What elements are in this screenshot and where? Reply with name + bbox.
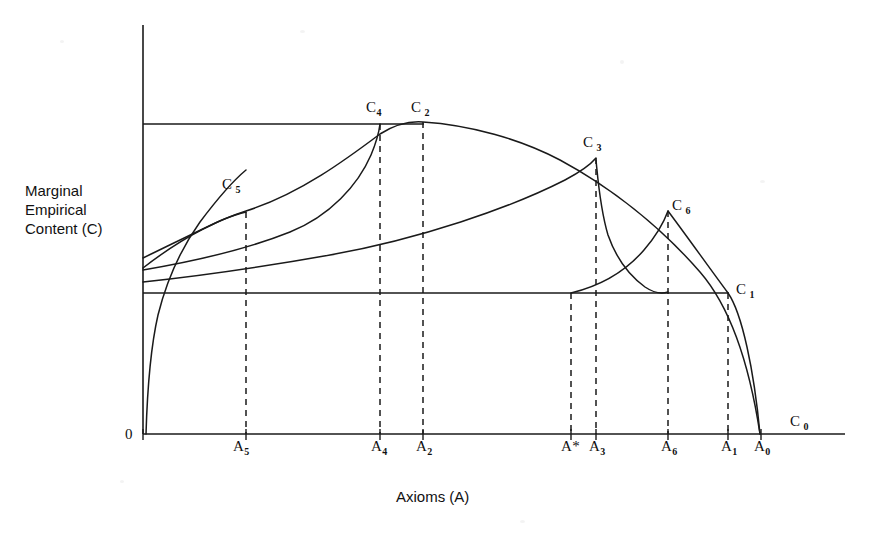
x-tick-label-A0: A0 [754,438,770,457]
curve-C6 [596,160,668,293]
y-axis-title: Marginal Empirical Content (C) [25,181,103,238]
x-tick-label-A1-base: A [721,438,732,454]
x-tick-label-A3: A3 [589,438,605,457]
x-tick-label-A4-base: A [371,438,382,454]
annotation-C3-base: C [583,134,594,150]
annotation-C2: C2 [411,99,430,118]
x-axis-title: Axioms (A) [396,487,469,506]
curve-C3 [143,158,596,282]
annotation-C2-base: C [411,99,422,115]
x-tick-label-Astar: A* [561,438,580,457]
annotation-C6-sub: 6 [686,205,691,216]
origin-label: 0 [125,426,133,443]
x-tick-label-A6: A6 [661,438,677,457]
annotation-C0-base: C [790,413,801,429]
annotation-C2-sub: 2 [425,107,430,118]
annotation-C1-sub: 1 [750,289,755,300]
x-tick-label-A4-sub: 4 [382,446,387,457]
annotation-C0-sub: 0 [804,421,809,432]
annotation-C6: C6 [672,197,691,216]
curve-C1-fall [668,211,760,434]
annotation-C3-sub: 3 [597,142,602,153]
annotation-C1-base: C [736,281,747,297]
x-tick-label-A1-sub: 1 [732,446,737,457]
annotation-C3: C3 [583,134,602,153]
curve-C0 [146,170,246,434]
y-axis-title-line-3: Content (C) [25,219,103,238]
x-tick-label-A1: A1 [721,438,737,457]
annotation-C0: C0 [790,413,809,432]
x-tick-label-A4: A4 [371,438,387,457]
annotation-C6-base: C [672,197,683,213]
chart-plot-area [0,0,880,546]
x-tick-label-A6-base: A [661,438,672,454]
x-tick-label-A5-sub: 5 [244,446,249,457]
x-tick-label-A5: A5 [233,438,249,457]
x-tick-label-Astar-base: A* [561,438,580,454]
y-axis-title-line-1: Marginal [25,181,103,200]
annotation-C5: C5 [222,176,241,195]
x-tick-label-A2-base: A [416,438,427,454]
x-tick-label-A3-base: A [589,438,600,454]
annotation-C1: C1 [736,281,755,300]
curve-C4 [143,124,380,270]
curve-C6-rise [571,211,668,293]
annotation-C5-sub: 5 [236,184,241,195]
x-tick-label-A5-base: A [233,438,244,454]
x-tick-label-A2-sub: 2 [427,446,432,457]
x-tick-label-A3-sub: 3 [600,446,605,457]
x-tick-label-A2: A2 [416,438,432,457]
annotation-C5-base: C [222,176,233,192]
y-axis-title-line-2: Empirical [25,200,103,219]
x-tick-label-A0-sub: 0 [765,446,770,457]
annotation-C4: C4 [366,99,382,118]
x-tick-label-A6-sub: 6 [672,446,677,457]
figure-canvas: Marginal Empirical Content (C) Axioms (A… [0,0,880,546]
annotation-C4-base: C [366,99,377,115]
annotation-C4-sub: 4 [377,107,382,118]
x-tick-label-A0-base: A [754,438,765,454]
